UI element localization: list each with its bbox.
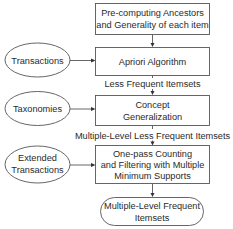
node-precompute-line-2: and Generality of each item: [96, 20, 209, 30]
flowchart-diagram: Pre-computing Ancestors and Generality o…: [0, 0, 233, 229]
node-precompute: Pre-computing Ancestors and Generality o…: [96, 4, 210, 35]
node-transactions: Transactions: [5, 43, 70, 77]
edge-onepass-to-result: [151, 184, 155, 198]
node-extended-line-1: Extended: [18, 153, 57, 163]
edge-label-less-frequent-itemsets: Less Frequent Itemsets: [104, 79, 200, 89]
arrowhead-icon: [151, 142, 155, 146]
edge-taxonomies-to-concept: [70, 107, 96, 111]
node-onepass-line-2: and Filtering with Multiple: [101, 160, 205, 170]
node-taxonomies: Taxonomies: [5, 92, 70, 126]
edge-extended-to-onepass: [70, 163, 96, 167]
edge-precompute-to-apriori: [151, 35, 155, 48]
node-apriori: Apriori Algorithm: [96, 48, 210, 76]
node-transactions-label: Transactions: [11, 56, 64, 66]
arrowhead-icon: [91, 107, 96, 111]
edge-label-multiple-level-less-frequent-itemsets: Multiple-Level Less Frequent Itemsets: [75, 131, 231, 141]
arrowhead-icon: [91, 59, 96, 63]
edge-transactions-to-apriori: [70, 59, 96, 63]
node-result-line-2: Itemsets: [135, 213, 170, 223]
node-precompute-line-1: Pre-computing Ancestors: [101, 8, 204, 18]
arrowhead-icon: [151, 193, 155, 197]
arrowhead-icon: [151, 43, 155, 47]
node-extended-line-2: Transactions: [11, 165, 64, 175]
node-multiple-level-frequent-itemsets: Multiple-Level Frequent Itemsets: [101, 198, 204, 226]
node-onepass-counting: One-pass Counting and Filtering with Mul…: [96, 146, 210, 184]
node-extended-transactions: Extended Transactions: [5, 146, 70, 183]
node-concept-line-1: Concept: [135, 100, 170, 110]
node-result-line-1: Multiple-Level Frequent: [104, 201, 200, 211]
arrowhead-icon: [151, 91, 155, 95]
node-apriori-label: Apriori Algorithm: [119, 57, 187, 67]
arrowhead-icon: [91, 163, 96, 167]
edge-apriori-to-concept: Less Frequent Itemsets: [104, 76, 200, 96]
node-concept-line-2: Generalization: [123, 112, 182, 122]
node-onepass-line-1: One-pass Counting: [113, 149, 192, 159]
node-concept-generalization: Concept Generalization: [96, 96, 210, 126]
node-taxonomies-label: Taxonomies: [13, 104, 62, 114]
edge-concept-to-onepass: Multiple-Level Less Frequent Itemsets: [75, 126, 231, 146]
node-onepass-line-3: Minimum Supports: [114, 171, 191, 181]
